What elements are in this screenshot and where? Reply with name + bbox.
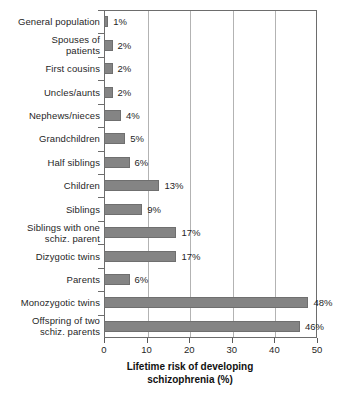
category-label: Spouses of patients — [51, 34, 100, 56]
category-tick — [98, 151, 104, 152]
bar — [104, 227, 176, 238]
category-label: Siblings with one schiz. parent — [27, 222, 100, 244]
x-axis-tick — [232, 338, 233, 343]
category-tick — [98, 57, 104, 58]
bar-value-label: 48% — [313, 297, 332, 308]
bar — [104, 251, 176, 262]
bar — [104, 40, 113, 51]
category-tick — [98, 10, 104, 11]
x-axis-tick-label: 0 — [101, 344, 106, 355]
x-axis-tick-label: 20 — [184, 344, 195, 355]
category-label: Offspring of two schiz. parents — [32, 315, 100, 337]
x-axis-tick — [189, 338, 190, 343]
bar-value-label: 6% — [135, 274, 149, 285]
category-tick — [98, 127, 104, 128]
bar-value-label: 4% — [126, 110, 140, 121]
bar-value-label: 2% — [118, 63, 132, 74]
x-axis-tick — [274, 338, 275, 343]
bar — [104, 157, 130, 168]
x-axis-tick-label: 10 — [141, 344, 152, 355]
bar-value-label: 13% — [164, 180, 183, 191]
category-label: Monozygotic twins — [21, 297, 100, 308]
gridline-10 — [148, 11, 149, 337]
bar — [104, 16, 108, 27]
category-label: Parents — [67, 274, 100, 285]
bar — [104, 297, 308, 308]
x-axis-tick-label: 50 — [312, 344, 323, 355]
bar — [104, 321, 300, 332]
bar-value-label: 17% — [181, 251, 200, 262]
bar — [104, 274, 130, 285]
category-tick — [98, 197, 104, 198]
x-axis-tick — [104, 338, 105, 343]
bar — [104, 87, 113, 98]
bar-value-label: 9% — [147, 204, 161, 215]
bar — [104, 133, 125, 144]
gridline-30 — [233, 11, 234, 337]
category-tick — [98, 244, 104, 245]
bar-value-label: 6% — [135, 157, 149, 168]
bar — [104, 110, 121, 121]
x-axis-tick — [147, 338, 148, 343]
category-tick — [98, 291, 104, 292]
gridline-20 — [190, 11, 191, 337]
category-label: Siblings — [66, 204, 100, 215]
category-tick — [98, 80, 104, 81]
bar-value-label: 46% — [305, 321, 324, 332]
schizophrenia-risk-bar-chart: General populationSpouses of patientsFir… — [0, 0, 340, 394]
x-axis-tick-label: 40 — [269, 344, 280, 355]
bar-value-label: 2% — [118, 40, 132, 51]
x-axis-tick-label: 30 — [227, 344, 238, 355]
bar — [104, 180, 159, 191]
gridline-40 — [275, 11, 276, 337]
bar-value-label: 2% — [118, 87, 132, 98]
category-label: First cousins — [45, 63, 100, 74]
category-tick — [98, 104, 104, 105]
bar-value-label: 17% — [181, 227, 200, 238]
category-label: Half siblings — [47, 157, 100, 168]
category-label: General population — [18, 16, 100, 27]
category-label: Dizygotic twins — [36, 251, 100, 262]
bar — [104, 204, 142, 215]
bar-value-label: 1% — [113, 16, 127, 27]
category-label: Nephews/nieces — [29, 110, 100, 121]
category-tick — [98, 268, 104, 269]
plot-area — [104, 10, 317, 338]
bar — [104, 63, 113, 74]
x-axis-tick — [317, 338, 318, 343]
bar-value-label: 5% — [130, 133, 144, 144]
x-axis-title: Lifetime risk of developing schizophreni… — [0, 360, 340, 386]
category-label: Grandchildren — [39, 133, 100, 144]
category-label: Children — [64, 180, 100, 191]
category-label: Uncles/aunts — [44, 87, 100, 98]
category-tick — [98, 174, 104, 175]
